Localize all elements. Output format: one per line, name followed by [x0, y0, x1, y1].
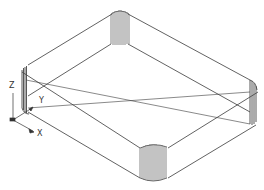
back-corner-fillet: [111, 10, 129, 45]
ucs-z-label: Z: [9, 81, 14, 90]
cad-viewport[interactable]: Z Y X: [0, 0, 264, 190]
left-corner-fillet: [22, 66, 29, 114]
front-corner-fillet: [140, 144, 167, 181]
ucs-y-label: Y: [39, 96, 44, 105]
ucs-x-label: X: [37, 129, 42, 138]
right-corner-fillet: [250, 80, 257, 125]
